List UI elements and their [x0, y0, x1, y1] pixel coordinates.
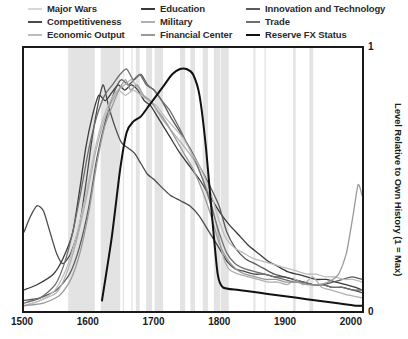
legend-swatch-icon [28, 34, 42, 36]
legend-label: Financial Center [160, 30, 232, 40]
legend-label: Trade [265, 17, 290, 27]
plot-inner [24, 48, 362, 311]
x-axis-tick: 1500 [11, 316, 33, 327]
legend-item-competitiveness[interactable]: Competitiveness [28, 17, 122, 27]
legend-item-major-wars[interactable]: Major Wars [28, 4, 97, 14]
war-band [131, 48, 132, 311]
chart-canvas [24, 48, 362, 311]
war-band [293, 48, 296, 311]
war-band [265, 48, 266, 311]
legend-label: Innovation and Technology [265, 4, 385, 14]
legend-swatch-icon [28, 21, 42, 23]
legend-label: Education [160, 4, 205, 14]
chart-legend: Major WarsEducationInnovation and Techno… [28, 3, 403, 43]
legend-swatch-icon [141, 34, 155, 36]
x-axis-tick: 1800 [208, 316, 230, 327]
legend-item-financial-center[interactable]: Financial Center [141, 30, 232, 40]
y-axis-tick-max: 1 [368, 41, 374, 52]
legend-swatch-icon [246, 8, 260, 10]
legend-item-economic-output[interactable]: Economic Output [28, 30, 125, 40]
legend-label: Military [160, 17, 192, 27]
legend-item-military[interactable]: Military [141, 17, 192, 27]
y-axis-tick-min: 0 [368, 306, 374, 317]
legend-label: Major Wars [47, 4, 97, 14]
legend-item-trade[interactable]: Trade [246, 17, 290, 27]
legend-swatch-icon [28, 8, 42, 10]
legend-label: Reserve FX Status [265, 30, 347, 40]
series-line-reserve-fx-status [102, 69, 362, 306]
war-band [221, 48, 229, 311]
plot-area [22, 46, 364, 313]
legend-item-reserve-fx-status[interactable]: Reserve FX Status [246, 30, 347, 40]
legend-row: Economic OutputFinancial CenterReserve F… [28, 29, 403, 41]
legend-swatch-icon [246, 34, 260, 36]
legend-swatch-icon [141, 8, 155, 10]
legend-row: Major WarsEducationInnovation and Techno… [28, 3, 403, 15]
legend-label: Competitiveness [47, 17, 122, 27]
chart-page: Major WarsEducationInnovation and Techno… [0, 0, 408, 339]
legend-item-education[interactable]: Education [141, 4, 205, 14]
y-axis-label: Level Relative to Own History (1 = Max) [380, 90, 404, 290]
war-bands-group [68, 48, 313, 311]
x-axis-tick: 1700 [142, 316, 164, 327]
legend-swatch-icon [246, 21, 260, 23]
x-axis-tick: 1900 [274, 316, 296, 327]
legend-item-innovation-and-technology[interactable]: Innovation and Technology [246, 4, 385, 14]
legend-swatch-icon [141, 21, 155, 23]
x-axis-tick: 1600 [77, 316, 99, 327]
legend-row: CompetitivenessMilitaryTrade [28, 16, 403, 28]
war-band [309, 48, 313, 311]
war-band [180, 48, 185, 311]
war-band [190, 48, 195, 311]
x-axis-tick: 2000 [340, 316, 362, 327]
legend-label: Economic Output [47, 30, 125, 40]
war-band [123, 48, 124, 311]
